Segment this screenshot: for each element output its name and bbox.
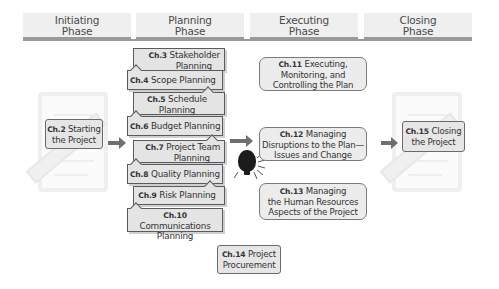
- chapter-title-cont: the Human Resources: [268, 197, 359, 207]
- chapter-13-managing-human-resources[interactable]: Ch.13 Managing the Human Resources Aspec…: [259, 183, 367, 220]
- chapter-number: Ch.14: [222, 250, 245, 259]
- chapter-14-project-procurement[interactable]: Ch.14 Project Procurement: [217, 245, 281, 274]
- header-rule: [23, 39, 472, 41]
- phase-header-closing: Closing Phase: [364, 13, 472, 39]
- box-line: Ch.14 Project: [222, 249, 276, 260]
- arrow-right-icon: [230, 139, 247, 143]
- arrow-right-icon: [108, 141, 120, 145]
- chapter-number: Ch.3: [149, 51, 167, 60]
- chapter-title: Risk Planning: [157, 190, 216, 200]
- chapter-number: Ch.13: [280, 187, 303, 196]
- phase-header-initiating: Initiating Phase: [23, 13, 131, 39]
- chapter-number: Ch.12: [280, 130, 303, 139]
- chapter-title-cont: Aspects of the Project: [268, 207, 357, 217]
- chapter-number: Ch.4: [130, 76, 148, 85]
- arrow-right-icon: [381, 141, 392, 145]
- chapter-title: Stakeholder: [167, 50, 220, 60]
- chapter-title: Budget Planning: [148, 121, 220, 131]
- phase-header-planning: Planning Phase: [136, 13, 244, 39]
- chapter-title-cont: Planning: [134, 105, 220, 115]
- chapter-12-managing-disruptions[interactable]: Ch.12 Managing Disruptions to the Plan— …: [259, 127, 367, 161]
- chapter-number: Ch.2: [47, 125, 65, 134]
- phase-subtitle: Phase: [136, 26, 244, 37]
- chapter-title-cont: Planning: [134, 153, 220, 163]
- box-line: Ch.3 Stakeholder: [134, 50, 220, 61]
- chapter-title: Project: [245, 249, 276, 259]
- chapter-5-schedule-planning[interactable]: Ch.5 Schedule Planning: [133, 92, 225, 115]
- chapter-title-cont: Monitoring, and: [281, 70, 346, 80]
- chapter-number: Ch.11: [278, 60, 301, 69]
- box-line: Ch.2 Starting: [47, 124, 101, 135]
- box-line: Ch.15 Closing: [406, 126, 462, 137]
- chapter-7-project-team-planning[interactable]: Ch.7 Project Team Planning: [133, 140, 225, 163]
- phase-header-executing: Executing Phase: [250, 13, 358, 39]
- chapter-number: Ch.15: [406, 127, 429, 136]
- box-line: Ch.10 Communications: [128, 210, 222, 231]
- chapter-title: Managing: [303, 129, 346, 139]
- chapter-title-cont: Planning: [128, 231, 222, 241]
- chapter-number: Ch.8: [130, 170, 148, 179]
- chapter-title: Scope Planning: [148, 75, 215, 85]
- light-bulb-icon: [238, 150, 256, 172]
- chapter-number: Ch.7: [145, 143, 163, 152]
- chapter-title: Quality Planning: [148, 169, 220, 179]
- box-line: Ch.11 Executing,: [278, 59, 347, 70]
- box-line: Ch.7 Project Team: [134, 142, 220, 153]
- box-line: Ch.13 Managing: [280, 186, 347, 197]
- chapter-9-risk-planning[interactable]: Ch.9 Risk Planning: [133, 186, 225, 205]
- chapter-title-cont: Procurement: [223, 260, 276, 270]
- chapter-6-budget-planning[interactable]: Ch.6 Budget Planning: [127, 116, 223, 136]
- chapter-title-cont: the Project: [52, 135, 96, 145]
- chapter-number: Ch.6: [130, 122, 148, 131]
- chapter-title: Communications: [139, 221, 210, 231]
- chapter-title-cont: the Project: [411, 137, 455, 147]
- chapter-title: Schedule: [165, 94, 206, 104]
- chapter-number: Ch.5: [147, 95, 165, 104]
- phase-subtitle: Phase: [364, 26, 472, 37]
- box-line: Ch.12 Managing: [280, 129, 347, 140]
- chapter-11-executing-monitoring-controlling[interactable]: Ch.11 Executing, Monitoring, and Control…: [259, 57, 367, 91]
- chapter-title: Executing,: [302, 59, 348, 69]
- chapter-10-communications-planning[interactable]: Ch.10 Communications Planning: [127, 208, 223, 232]
- chapter-number: Ch.9: [138, 191, 156, 200]
- chapter-title-cont: Controlling the Plan: [273, 80, 354, 90]
- chapter-15-closing-the-project[interactable]: Ch.15 Closing the Project: [402, 121, 465, 152]
- chapter-title: Managing: [303, 186, 346, 196]
- chapter-title: Closing: [429, 126, 462, 136]
- chapter-3-stakeholder-planning[interactable]: Ch.3 Stakeholder Planning: [133, 48, 225, 71]
- chapter-2-starting-the-project[interactable]: Ch.2 Starting the Project: [45, 119, 103, 149]
- phase-subtitle: Phase: [23, 26, 131, 37]
- chapter-title: Starting: [66, 124, 101, 134]
- chapter-title-cont: Issues and Change: [274, 150, 352, 160]
- chapter-number: Ch.10: [163, 211, 186, 220]
- phase-subtitle: Phase: [250, 26, 358, 37]
- chapter-title-cont: Disruptions to the Plan—: [262, 140, 364, 150]
